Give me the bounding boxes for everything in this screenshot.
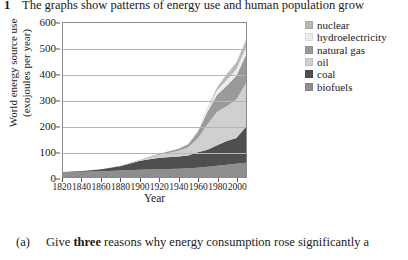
x-tick-label: 1880 <box>111 182 130 192</box>
x-tick-label: 2000 <box>228 182 247 192</box>
legend-item-nuclear: nuclear <box>305 19 408 31</box>
y-tick-label: 300 <box>22 95 56 106</box>
x-tick-label: 1960 <box>189 182 208 192</box>
y-tick-mark <box>56 152 60 153</box>
gridline <box>63 101 246 102</box>
legend-label: oil <box>317 56 329 68</box>
x-axis-title: Year <box>62 192 247 204</box>
x-tick-label: 1860 <box>91 182 110 192</box>
y-tick-label: 500 <box>22 43 56 54</box>
x-tick-label: 1900 <box>130 182 149 192</box>
legend-swatch <box>305 21 313 29</box>
y-tick-mark <box>56 22 60 23</box>
legend-item-hydroelectricity: hydroelectricity <box>305 31 408 43</box>
x-tick-label: 1980 <box>208 182 227 192</box>
y-axis-title-line1: World energy source use <box>7 0 20 148</box>
part-a-question: (a)Give three reasons why energy consump… <box>0 234 408 250</box>
legend-item-biofuels: biofuels <box>305 80 408 92</box>
x-axis-tick-labels: 1820184018601880190019201940196019802000 <box>62 178 247 192</box>
y-tick-mark <box>56 126 60 127</box>
part-a-text-before: Give <box>46 235 73 249</box>
part-a-text-after: reasons why energy consumption rose sign… <box>101 235 369 249</box>
y-tick-label: 400 <box>22 69 56 80</box>
legend-label: hydroelectricity <box>317 31 387 43</box>
y-axis-tick-labels: 6005004003002001000 <box>22 16 56 186</box>
y-tick-mark <box>56 74 60 75</box>
chart-legend: nuclearhydroelectricitynatural gasoilcoa… <box>305 19 408 93</box>
energy-use-chart: World energy source use (exojoules per y… <box>0 16 408 226</box>
legend-label: coal <box>317 68 335 80</box>
legend-swatch <box>305 83 313 91</box>
y-tick-mark <box>56 48 60 49</box>
legend-item-oil: oil <box>305 56 408 68</box>
x-tick-label: 1920 <box>150 182 169 192</box>
gridline <box>63 49 246 50</box>
y-tick-mark <box>56 178 60 179</box>
part-a-label: (a) <box>0 234 46 250</box>
legend-item-coal: coal <box>305 68 408 80</box>
y-tick-mark <box>56 100 60 101</box>
question-heading: 1The graphs show patterns of energy use … <box>0 0 408 13</box>
legend-label: nuclear <box>317 19 349 31</box>
y-tick-label: 200 <box>22 121 56 132</box>
y-tick-label: 600 <box>22 17 56 28</box>
gridline <box>63 75 246 76</box>
legend-swatch <box>305 70 313 78</box>
x-tick-label: 1940 <box>169 182 188 192</box>
gridline <box>63 127 246 128</box>
y-tick-label: 100 <box>22 147 56 158</box>
legend-label: biofuels <box>317 81 352 93</box>
question-stem-text: The graphs show patterns of energy use a… <box>22 0 364 12</box>
legend-swatch <box>305 58 313 66</box>
legend-swatch <box>305 33 313 41</box>
x-tick-label: 1820 <box>53 182 72 192</box>
plot-area <box>62 22 247 178</box>
part-a-emphasis: three <box>73 235 101 249</box>
legend-swatch <box>305 46 313 54</box>
legend-item-natural-gas: natural gas <box>305 44 408 56</box>
y-tick-label: 0 <box>22 173 56 184</box>
x-tick-label: 1840 <box>72 182 91 192</box>
gridline <box>63 153 246 154</box>
legend-label: natural gas <box>317 44 365 56</box>
